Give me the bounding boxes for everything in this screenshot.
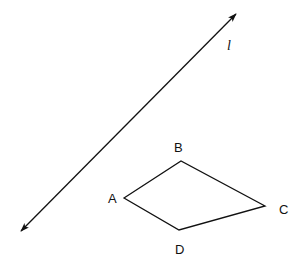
vertex-label-b: B	[174, 140, 183, 155]
vertex-label-d: D	[175, 242, 184, 257]
diagram-canvas: l A B C D	[0, 0, 304, 269]
vertex-label-a: A	[108, 191, 117, 206]
line-l	[21, 14, 236, 231]
quadrilateral-abcd	[124, 161, 265, 230]
line-l-label: l	[227, 38, 231, 53]
vertex-label-c: C	[279, 202, 288, 217]
